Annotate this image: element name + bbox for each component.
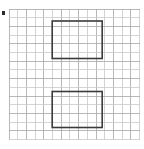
grid-figure-canvas xyxy=(0,0,144,149)
figure-container xyxy=(0,0,144,149)
marks-layer xyxy=(2,11,5,15)
corner-tick-mark xyxy=(2,11,5,15)
